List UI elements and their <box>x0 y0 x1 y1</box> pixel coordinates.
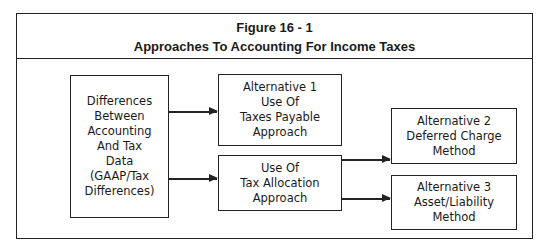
node-line: Alternative 1 <box>243 80 317 95</box>
arrow-tax-allocation-to-alt3 <box>342 198 390 200</box>
node-line: Taxes Payable <box>240 110 320 125</box>
node-line: (GAAP/Tax <box>90 169 149 184</box>
node-line: And Tax <box>97 139 142 154</box>
node-line: Differences <box>87 94 152 109</box>
node-line: Approach <box>253 191 308 206</box>
node-line: Between <box>94 109 144 124</box>
arrow-differences-to-tax-allocation <box>169 178 217 180</box>
node-line: Approach <box>253 125 308 140</box>
node-line: Alternative 2 <box>417 114 491 129</box>
figure-header: Figure 16 - 1 Approaches To Accounting F… <box>17 14 532 59</box>
node-alternative1: Alternative 1 Use Of Taxes Payable Appro… <box>218 74 342 146</box>
node-line: Deferred Charge <box>406 129 501 144</box>
figure-number: Figure 16 - 1 <box>17 20 532 36</box>
arrow-differences-to-alt1 <box>169 111 217 113</box>
node-line: Method <box>432 210 475 225</box>
node-alternative3: Alternative 3 Asset/Liability Method <box>391 175 517 230</box>
node-line: Use Of <box>261 95 299 110</box>
node-line: Asset/Liability <box>414 195 494 210</box>
node-line: Method <box>432 144 475 159</box>
arrow-tax-allocation-to-alt2 <box>342 159 390 161</box>
figure-title: Approaches To Accounting For Income Taxe… <box>17 39 532 55</box>
node-line: Differences) <box>85 184 155 199</box>
node-line: Use Of <box>261 161 299 176</box>
node-line: Accounting <box>87 124 151 139</box>
node-line: Data <box>106 154 133 169</box>
node-line: Alternative 3 <box>417 180 491 195</box>
node-alternative2: Alternative 2 Deferred Charge Method <box>391 108 517 164</box>
node-line: Tax Allocation <box>240 176 319 191</box>
node-differences: Differences Between Accounting And Tax D… <box>70 75 169 218</box>
node-tax-allocation: Use Of Tax Allocation Approach <box>218 155 342 211</box>
